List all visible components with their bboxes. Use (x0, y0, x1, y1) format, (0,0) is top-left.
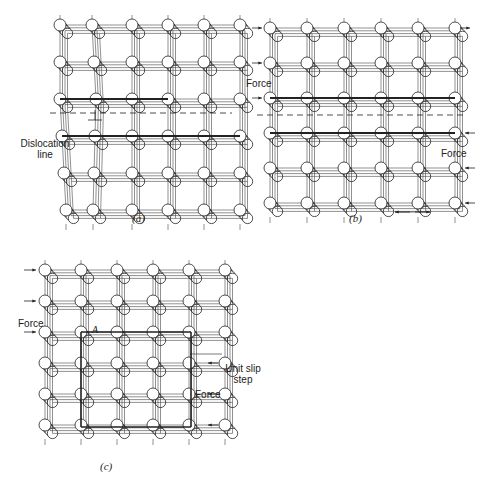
label-unit-slip-step: Unit slip step (222, 363, 264, 385)
caption-c: (c) (100, 460, 112, 472)
label-force-right-b: Force (441, 148, 467, 159)
label-point-a: A (92, 324, 98, 335)
label-dislocation-line: Dislocation line (20, 138, 70, 160)
label-force-right-c: Force (195, 389, 221, 400)
label-force-left-c: Force (18, 318, 44, 329)
crystal-lattice-diagram (0, 0, 483, 488)
caption-a: (a) (132, 212, 145, 224)
caption-b: (b) (349, 212, 362, 224)
label-force-left-b: Force (246, 78, 272, 89)
